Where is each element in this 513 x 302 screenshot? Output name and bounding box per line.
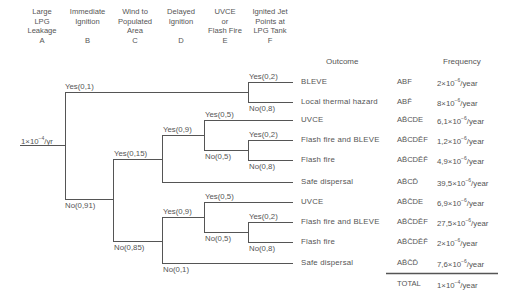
outcome-frequency: 8×10−6/year [437,97,478,108]
branch-b-no: No(0,91) [65,201,95,210]
unit: /year [460,239,477,248]
unit: /year [460,99,477,108]
unit: /year [460,281,477,290]
outcome-frequency: 6,1×10−6/year [437,115,484,126]
mantissa: 7,6×10 [437,260,461,269]
branch-b-yes: Yes(0,1) [65,82,94,91]
branch-f-yes-1: Yes(0,2) [249,72,278,81]
outcome-label: Local thermal hazard [301,97,378,106]
mantissa: 1×10 [21,137,39,146]
outcome-code: AB̄C̄DĒF [397,217,428,226]
outcome-label: Flash fire and BLEVE [301,217,380,226]
outcome-frequency: 27,5×10−6/year [437,217,488,228]
outcome-frequency: 39,5×10−6/year [437,177,488,188]
unit: /year [467,157,484,166]
outcome-code: AB̄C̄D̄ [397,258,418,267]
mantissa: 1×10 [437,281,455,290]
branch-d-yes-lower: Yes(0,9) [163,207,192,216]
initiating-event-frequency: 1×10−4/yr [21,135,53,146]
unit: /year [460,79,477,88]
outcome-frequency: 2×10−6/year [437,77,478,88]
mantissa: 2×10 [437,239,455,248]
branch-e-yes-2: Yes(0,5) [205,192,234,201]
total-frequency: 1×10−4/year [437,279,478,290]
mantissa: 8×10 [437,99,455,108]
branch-f-no-3: No(0,8) [249,244,275,253]
branch-f-yes-3: Yes(0,2) [249,212,278,221]
branch-d-yes-upper: Yes(0,9) [163,125,192,134]
mantissa: 39,5×10 [437,179,465,188]
mantissa: 4,9×10 [437,157,461,166]
mantissa: 27,5×10 [437,219,465,228]
unit: /year [471,179,488,188]
mantissa: 2×10 [437,79,455,88]
unit: /year [467,199,484,208]
outcome-label: Flash fire [301,155,335,164]
outcome-frequency: 7,6×10−6/year [437,258,484,269]
branch-c-yes: Yes(0,15) [114,149,147,158]
total-label: TOTAL [397,279,421,288]
branch-f-yes-2: Yes(0,2) [249,130,278,139]
outcome-code: AB̄C̄DĒF̄ [397,237,428,246]
outcome-label: Safe dispersal [301,258,353,267]
outcome-frequency: 6,9×10−6/year [437,197,484,208]
unit: /year [467,260,484,269]
unit: /year [471,219,488,228]
mantissa: 6,9×10 [437,199,461,208]
branch-e-no-1: No(0,5) [205,152,231,161]
mantissa: 1,2×10 [437,137,461,146]
outcome-code: ABF [397,77,412,86]
mantissa: 6,1×10 [437,117,461,126]
branch-c-no: No(0,85) [114,243,144,252]
outcome-code: AB̄CDĒF̄ [397,155,428,164]
branch-f-no-2: No(0,8) [249,162,275,171]
outcome-label: Flash fire and BLEVE [301,135,380,144]
outcome-code: AB̄C̄DE [397,197,423,206]
branch-e-no-2: No(0,5) [205,234,231,243]
outcome-frequency: 1,2×10−6/year [437,135,484,146]
outcome-code: AB̄CDĒF [397,135,428,144]
outcome-code: ABF̄ [397,97,412,106]
outcome-label: Safe dispersal [301,177,353,186]
branch-d-no-lower: No(0,1) [163,265,189,274]
unit: /year [467,117,484,126]
outcome-frequency: 2×10−6/year [437,237,478,248]
outcome-frequency: 4,9×10−6/year [437,155,484,166]
outcome-label: BLEVE [301,77,327,86]
outcome-label: UVCE [301,115,323,124]
outcome-code: AB̄CD̄ [397,177,418,186]
outcome-label: Flash fire [301,237,335,246]
outcome-code: AB̄CDE [397,115,423,124]
unit: /year [467,137,484,146]
branch-f-no-1: No(0,8) [249,104,275,113]
event-tree-lines [0,0,513,302]
outcome-label: UVCE [301,197,323,206]
branch-e-yes-1: Yes(0,5) [205,110,234,119]
unit: /yr [44,137,53,146]
